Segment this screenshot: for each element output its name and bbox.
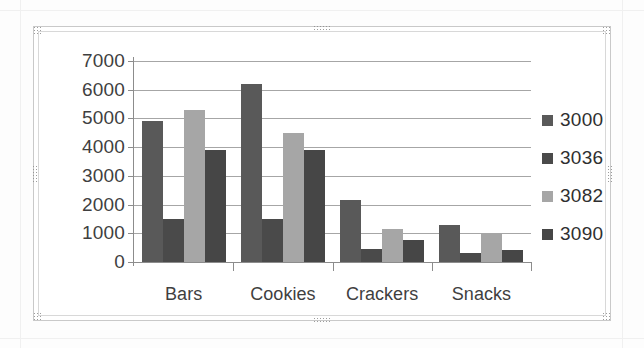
page-ghost-rule [0, 338, 644, 339]
legend-swatch-icon [542, 115, 553, 126]
legend-item[interactable]: 3082 [542, 177, 612, 215]
bar[interactable] [460, 253, 481, 262]
y-axis-tick [128, 262, 134, 263]
chart-object[interactable]: 01000200030004000500060007000 BarsCookie… [33, 26, 611, 321]
y-axis-tick-label: 7000 [82, 50, 125, 72]
legend-item[interactable]: 3036 [542, 139, 612, 177]
y-axis-tick-label: 3000 [82, 165, 125, 187]
page-ghost-rule [20, 0, 21, 348]
x-axis-tick [333, 262, 334, 271]
y-axis-tick-label: 2000 [82, 194, 125, 216]
legend-label: 3036 [560, 147, 603, 169]
legend-swatch-icon [542, 153, 553, 164]
legend-label: 3000 [560, 109, 603, 131]
y-axis-tick-label: 6000 [82, 79, 125, 101]
bar-group: Crackers [333, 61, 432, 262]
x-axis-line [128, 262, 531, 263]
legend-item[interactable]: 3090 [542, 215, 612, 253]
plot-area: 01000200030004000500060007000 BarsCookie… [134, 61, 531, 262]
bar[interactable] [205, 150, 226, 262]
bar[interactable] [283, 133, 304, 262]
bar[interactable] [184, 110, 205, 262]
bar[interactable] [502, 250, 523, 262]
legend-swatch-icon [542, 229, 553, 240]
bar[interactable] [439, 225, 460, 262]
x-axis-category-label: Snacks [452, 284, 511, 305]
bar[interactable] [304, 150, 325, 262]
bar[interactable] [142, 121, 163, 262]
bar[interactable] [481, 233, 502, 262]
bar-group: Snacks [432, 61, 531, 262]
y-axis-tick-label: 4000 [82, 136, 125, 158]
x-axis-category-label: Bars [165, 284, 202, 305]
legend-swatch-icon [542, 191, 553, 202]
bar[interactable] [163, 219, 184, 262]
page-ghost-rule [622, 0, 623, 348]
legend-label: 3090 [560, 223, 603, 245]
y-axis-tick-label: 5000 [82, 107, 125, 129]
x-axis-tick [432, 262, 433, 271]
x-axis-category-label: Cookies [250, 284, 315, 305]
x-axis-tick [233, 262, 234, 271]
x-axis-category-label: Crackers [346, 284, 418, 305]
legend-label: 3082 [560, 185, 603, 207]
bar[interactable] [241, 84, 262, 262]
chart-legend[interactable]: 3000303630823090 [542, 101, 612, 253]
bar-group: Cookies [233, 61, 332, 262]
page-background: 01000200030004000500060007000 BarsCookie… [0, 0, 644, 348]
x-axis-tick [531, 262, 532, 271]
bar[interactable] [340, 200, 361, 262]
y-axis-tick-label: 0 [114, 251, 125, 273]
bar[interactable] [382, 229, 403, 262]
bar-group: Bars [134, 61, 233, 262]
bar[interactable] [262, 219, 283, 262]
chart-canvas[interactable]: 01000200030004000500060007000 BarsCookie… [34, 27, 610, 320]
bar[interactable] [403, 240, 424, 262]
page-ghost-rule [0, 10, 644, 11]
y-axis-tick-label: 1000 [82, 222, 125, 244]
legend-item[interactable]: 3000 [542, 101, 612, 139]
bar[interactable] [361, 249, 382, 262]
